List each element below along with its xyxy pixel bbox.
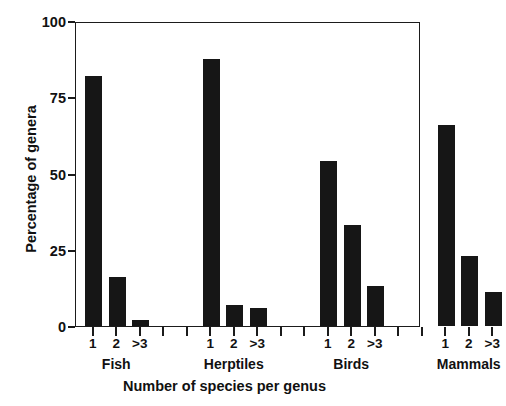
x-tick-mark — [115, 327, 117, 336]
x-tick-mark — [256, 327, 258, 336]
y-tick-mark — [68, 21, 75, 23]
x-tick-mark — [327, 327, 329, 336]
x-tick-mark-spacer — [303, 327, 305, 336]
x-tick-mark-spacer — [162, 327, 164, 336]
y-tick-mark — [68, 97, 75, 99]
bar — [320, 161, 337, 326]
y-tick-mark — [68, 174, 75, 176]
x-tick-mark — [139, 327, 141, 336]
y-tick-label: 75 — [20, 91, 66, 106]
bar — [438, 125, 455, 326]
x-tick-label: >3 — [355, 337, 395, 351]
x-axis-title: Number of species per genus — [0, 378, 449, 394]
y-tick-label: 50 — [20, 168, 66, 183]
bar — [461, 256, 478, 326]
x-tick-label: >3 — [237, 337, 277, 351]
x-tick-mark — [444, 327, 446, 336]
bar — [109, 277, 126, 326]
x-group-label: Birds — [291, 357, 411, 371]
y-tick-label: 100 — [20, 15, 66, 30]
x-group-label: Fish — [56, 357, 176, 371]
y-tick-mark — [68, 250, 75, 252]
bar — [85, 76, 102, 326]
y-tick-mark — [68, 326, 75, 328]
x-tick-mark — [491, 327, 493, 336]
bar — [344, 225, 361, 326]
bar — [132, 320, 149, 326]
y-tick-label: 25 — [20, 244, 66, 259]
bar — [203, 59, 220, 326]
x-group-label: Herptiles — [174, 357, 294, 371]
x-tick-mark — [468, 327, 470, 336]
x-tick-mark-spacer — [280, 327, 282, 336]
y-tick-label: 0 — [20, 320, 66, 335]
x-tick-mark — [350, 327, 352, 336]
x-tick-mark-spacer — [397, 327, 399, 336]
x-tick-mark — [233, 327, 235, 336]
x-tick-mark — [374, 327, 376, 336]
x-tick-mark — [209, 327, 211, 336]
x-tick-label: >3 — [120, 337, 160, 351]
x-axis-ticks: 12>3Fish12>3Herptiles12>3Birds12>3Mammal… — [75, 327, 420, 336]
x-group-label: Mammals — [409, 357, 506, 371]
x-tick-mark-spacer — [421, 327, 423, 336]
bar — [367, 286, 384, 326]
bar-series-container — [76, 23, 419, 326]
x-tick-mark — [92, 327, 94, 336]
x-tick-label: >3 — [472, 337, 506, 351]
bar — [226, 305, 243, 326]
bar — [485, 292, 502, 326]
x-tick-mark-spacer — [186, 327, 188, 336]
bar — [250, 308, 267, 326]
plot-area — [75, 22, 420, 327]
